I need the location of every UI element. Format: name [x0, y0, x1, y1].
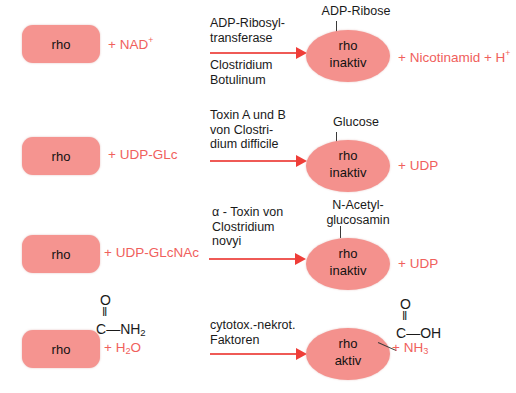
- rho-product-ellipse: rho inaktiv: [306, 140, 390, 192]
- substrate-text: + UDP-GLc: [108, 147, 177, 162]
- product-label-line2: inaktiv: [306, 165, 390, 180]
- enzyme-label: cytotox.-nekrot. Faktoren: [210, 318, 295, 347]
- modification-line: ADP-Ribose: [276, 4, 436, 19]
- rho-label: rho: [22, 247, 100, 262]
- released-products: + NH3: [392, 340, 428, 356]
- enzyme-line: Toxin A und B: [210, 108, 286, 123]
- enzyme-label: ADP-Ribosyl- transferase: [210, 16, 285, 45]
- substrate-label: + UDP-GLc: [108, 147, 177, 162]
- product-label-line1: rho: [306, 38, 390, 53]
- carbon-group: C—NH2: [96, 321, 146, 338]
- product-label-line1: rho: [306, 148, 390, 163]
- enzyme-line: Faktoren: [210, 333, 295, 348]
- modification-label: ADP-Ribose: [276, 4, 436, 19]
- modification-label: N-Acetyl- glucosamin: [278, 198, 438, 227]
- rho-label: rho: [22, 37, 100, 52]
- hydroxyl-group: OH: [420, 325, 441, 341]
- substrate-text: + UDP-GLcNAc: [104, 245, 199, 260]
- substrate-text2: O: [131, 340, 142, 355]
- organism-label: Clostridium Botulinum: [210, 58, 273, 87]
- amine-subscript: 2: [140, 327, 145, 338]
- substrate-charge: +: [148, 35, 153, 45]
- organism-line: Clostridium: [210, 58, 273, 73]
- modification-line: glucosamin: [278, 213, 438, 228]
- arrow-shaft: [210, 353, 298, 355]
- substrate-text: + H: [104, 340, 125, 355]
- enzyme-line: von Clostri-: [210, 123, 286, 138]
- released-products: + Nicotinamid + H+: [398, 48, 510, 65]
- reaction-arrow: [210, 155, 308, 167]
- carbon-group: C—OH: [396, 325, 441, 341]
- enzyme-label: Toxin A und B von Clostri- dium difficil…: [210, 108, 286, 152]
- amine-group: NH: [120, 321, 140, 337]
- modification-line: Glucose: [286, 115, 426, 130]
- carbon-atom: C: [396, 325, 406, 341]
- substrate-label: + H2O: [104, 340, 141, 356]
- arrow-head: [295, 253, 306, 265]
- reaction-arrow: [209, 253, 307, 265]
- rho-product-ellipse: rho inaktiv: [306, 238, 390, 290]
- rho-substrate-box: rho: [22, 330, 100, 368]
- rho-product-ellipse: rho aktiv: [306, 328, 390, 380]
- arrow-shaft: [210, 52, 298, 54]
- enzyme-line: α - Toxin von: [212, 205, 283, 220]
- enzyme-line: novyi: [212, 234, 283, 249]
- modification-bond: [340, 226, 341, 238]
- enzyme-line: Clostridium: [212, 220, 283, 235]
- product-label-line2: inaktiv: [306, 263, 390, 278]
- released-text: + Nicotinamid + H: [398, 50, 505, 65]
- substrate-text: + NAD: [108, 37, 148, 52]
- double-bond: ‖: [102, 307, 107, 316]
- rho-substrate-box: rho: [22, 25, 100, 63]
- enzyme-line: transferase: [210, 31, 285, 46]
- product-label-line2: inaktiv: [306, 55, 390, 70]
- enzyme-line: cytotox.-nekrot.: [210, 318, 295, 333]
- released-text: + NH: [392, 340, 423, 355]
- rho-product-ellipse: rho inaktiv: [306, 30, 390, 82]
- substrate-label: + UDP-GLcNAc: [104, 245, 199, 260]
- arrow-shaft: [209, 258, 297, 260]
- enzyme-line: ADP-Ribosyl-: [210, 16, 285, 31]
- released-products: + UDP: [398, 158, 438, 173]
- released-charge: +: [505, 48, 510, 58]
- modification-label: Glucose: [286, 115, 426, 130]
- single-bond: —: [406, 325, 420, 341]
- rho-label: rho: [22, 342, 100, 357]
- substrate-label: + NAD+: [108, 35, 153, 52]
- double-bond: ‖: [402, 311, 407, 320]
- product-label-line2: aktiv: [306, 353, 390, 368]
- organism-line: Botulinum: [210, 73, 273, 88]
- released-subscript: 3: [423, 346, 428, 356]
- modification-line: N-Acetyl-: [278, 198, 438, 213]
- enzyme-line: dium difficile: [210, 137, 286, 152]
- reaction-arrow: [210, 348, 308, 360]
- arrow-shaft: [210, 160, 298, 162]
- rho-label: rho: [22, 149, 100, 164]
- reaction-diagram: rho + NAD+ ADP-Ribosyl- transferase Clos…: [0, 0, 516, 393]
- rho-substrate-box: rho: [22, 137, 100, 175]
- released-text: + UDP: [398, 158, 438, 173]
- released-text: + UDP: [398, 256, 438, 271]
- single-bond: —: [106, 321, 120, 337]
- released-products: + UDP: [398, 256, 438, 271]
- rho-substrate-box: rho: [22, 235, 100, 273]
- enzyme-label: α - Toxin von Clostridium novyi: [212, 205, 283, 249]
- product-label-line1: rho: [306, 246, 390, 261]
